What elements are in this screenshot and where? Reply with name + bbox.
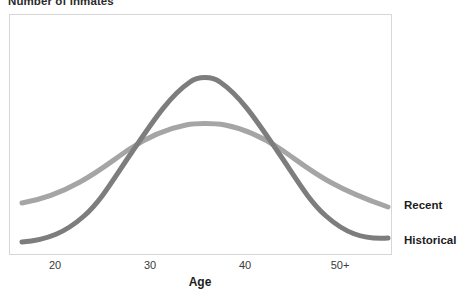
x-axis-tick-40: 40	[225, 259, 265, 272]
x-axis-tick-30: 30	[130, 259, 170, 272]
legend-item-historical: Historical	[404, 234, 456, 247]
chart-container: Number of inmates 20 30 40 50+ Age Recen…	[0, 0, 473, 299]
legend-item-recent: Recent	[404, 199, 442, 212]
x-axis-tick-20: 20	[35, 259, 75, 272]
x-axis-tick-50-plus: 50+	[320, 259, 360, 272]
chart-title: Number of inmates	[8, 0, 114, 8]
plot-area-frame	[9, 14, 392, 255]
x-axis-label: Age	[0, 275, 400, 289]
